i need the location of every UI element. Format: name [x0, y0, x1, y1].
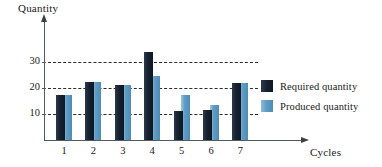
bar-required-cycle-6[interactable]: [203, 110, 212, 140]
x-tick-label-4: 4: [141, 145, 163, 156]
y-tick-label-20: 20: [14, 81, 40, 92]
required-swatch-icon: [261, 80, 273, 92]
x-tick-label-1: 1: [53, 145, 75, 156]
legend-label-required: Required quantity: [280, 81, 357, 92]
bar-required-cycle-4[interactable]: [144, 52, 153, 140]
bar-group-cycle-1: [56, 20, 72, 140]
bar-group-cycle-6: [203, 20, 219, 140]
x-axis-line: [44, 140, 302, 141]
bar-group-cycle-4: [144, 20, 160, 140]
y-axis-title: Quantity: [18, 2, 58, 14]
y-tick-label-10: 10: [14, 107, 40, 118]
x-axis-title: Cycles: [310, 146, 341, 158]
bar-required-cycle-1[interactable]: [56, 95, 65, 141]
produced-swatch-icon: [261, 100, 273, 112]
x-tick-label-7: 7: [229, 145, 251, 156]
x-tick-label-6: 6: [200, 145, 222, 156]
bar-required-cycle-3[interactable]: [115, 85, 124, 140]
x-tick-label-2: 2: [82, 145, 104, 156]
bar-required-cycle-2[interactable]: [85, 82, 94, 141]
bar-group-cycle-3: [115, 20, 131, 140]
y-tick-label-30: 30: [14, 55, 40, 66]
chart-legend: Required quantity Produced quantity: [261, 76, 358, 116]
bar-group-cycle-5: [174, 20, 190, 140]
x-tick-label-3: 3: [112, 145, 134, 156]
legend-item-produced[interactable]: Produced quantity: [261, 96, 358, 116]
bar-group-cycle-2: [85, 20, 101, 140]
legend-item-required[interactable]: Required quantity: [261, 76, 358, 96]
plot-area: [44, 20, 258, 140]
bar-chart-figure: Quantity 102030 1234567 Cycles Required …: [0, 0, 382, 167]
bar-group-cycle-7: [232, 20, 248, 140]
arrow-right-icon: [301, 137, 309, 143]
bar-required-cycle-7[interactable]: [232, 83, 241, 140]
legend-label-produced: Produced quantity: [280, 101, 358, 112]
bar-required-cycle-5[interactable]: [174, 111, 183, 140]
x-tick-label-5: 5: [171, 145, 193, 156]
